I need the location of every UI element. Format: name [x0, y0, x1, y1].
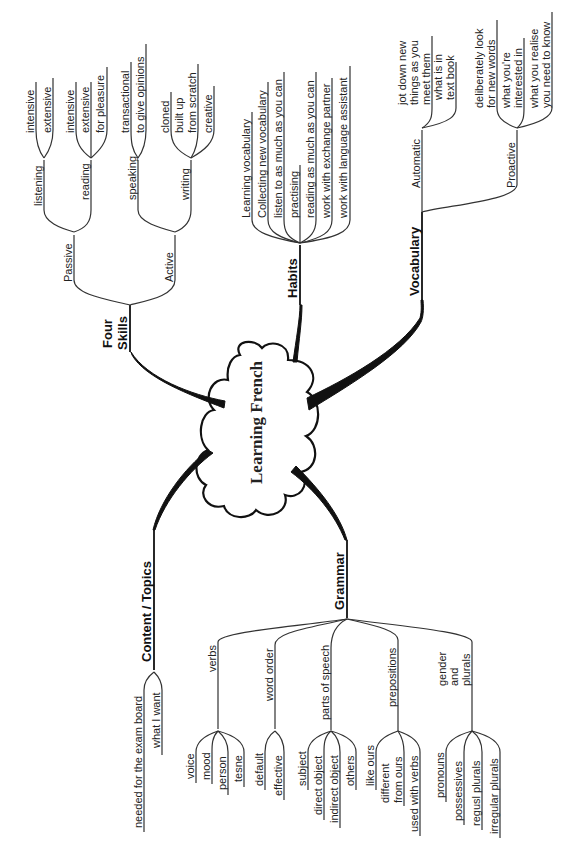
proactive-label: Proactive — [505, 142, 517, 188]
connector-grammar — [291, 466, 347, 540]
pos-item-direct-object: direct object — [312, 756, 324, 815]
proactive-item-2: what you're — [500, 52, 512, 109]
content-item-exam-board: needed for the exam board — [132, 696, 144, 828]
passive-label: Passive — [62, 243, 74, 282]
verbs-item-person: person — [216, 756, 228, 790]
habits-item-4: reading as much as you can — [304, 80, 316, 218]
automatic-item-3: what is in — [432, 54, 444, 101]
reading-item-intensive: intensive — [64, 90, 76, 133]
prep-item-used-with-verbs: used with verbs — [408, 755, 420, 832]
habits-item-5: work with exchange partner — [320, 83, 332, 219]
reading-item-for-pleasure: for pleasure — [94, 75, 106, 133]
proactive-item-5: you need to know — [540, 22, 552, 108]
writing-item-built-up: built up — [173, 98, 185, 133]
four-skills-label-1: Four — [100, 319, 115, 348]
prep-item-like-ours: like ours — [364, 745, 376, 786]
gp-item-pronouns: pronouns — [434, 752, 446, 798]
automatic-item-1: things as you — [408, 40, 420, 105]
grammar-label: Grammar — [332, 552, 347, 610]
active-label: Active — [163, 252, 175, 282]
automatic-item-2: meet them — [420, 53, 432, 105]
reading-label: reading — [79, 163, 91, 200]
listening-item-extensive: extensive — [41, 87, 53, 133]
reading-item-extensive: extensive — [79, 87, 91, 133]
habits-item-6: work with language assistant — [337, 77, 349, 219]
connector-habits — [293, 305, 302, 362]
habits-label: Habits — [285, 258, 300, 298]
plurals-label: plurals — [460, 653, 472, 686]
prep-item-from-ours: from ours — [392, 756, 404, 803]
content-topics-label: Content / Topics — [139, 561, 154, 662]
habits-item-0: Learning vocabulary — [240, 118, 252, 218]
writing-item-creative: creative — [202, 94, 214, 133]
word-order-item-default: default — [253, 753, 265, 786]
automatic-label: Automatic — [410, 139, 422, 188]
listening-label: listening — [32, 166, 44, 206]
and-label: and — [448, 668, 460, 686]
pos-item-indirect-object: indirect object — [328, 755, 340, 823]
branch-content-topics[interactable]: Content / Topics needed for the exam boa… — [132, 530, 162, 832]
writing-item-from-scratch: from scratch — [186, 72, 198, 133]
central-node-label: Learning French — [247, 361, 266, 484]
habits-item-3: practising — [288, 171, 300, 218]
central-node[interactable]: Learning French — [196, 342, 318, 517]
pos-item-others: others — [344, 755, 356, 786]
habits-item-2: listen to as much as you can — [272, 79, 284, 218]
connector-vocabulary — [307, 300, 423, 410]
content-item-what-i-want: what I want — [150, 692, 162, 749]
prep-item-different: different — [379, 763, 391, 803]
writing-item-cloned: cloned — [159, 101, 171, 133]
automatic-item-0: jot down new — [396, 41, 408, 106]
prepositions-label: prepositions — [386, 647, 398, 707]
gp-item-regusl-plurals: regusl plurals — [470, 760, 482, 826]
proactive-item-1: for new words — [485, 39, 497, 108]
speaking-item-transactional: transactional — [119, 71, 131, 133]
pos-item-subject: subject — [296, 751, 308, 786]
automatic-item-4: text book — [444, 55, 456, 100]
writing-label: writing — [179, 168, 191, 201]
verbs-item-voice: voice — [184, 753, 196, 779]
parts-of-speech-label: parts of speech — [319, 645, 331, 720]
speaking-label: speaking — [126, 156, 138, 200]
verbs-label: verbs — [206, 645, 218, 672]
proactive-item-0: deliberately look — [473, 28, 485, 108]
gp-item-irregular-plurals: irregular plurals — [488, 758, 500, 834]
vocabulary-label: Vocabulary — [407, 226, 422, 296]
gp-item-possessives: possessives — [452, 761, 464, 821]
mind-map: Learning French Four Skills Passive Acti… — [0, 0, 583, 859]
speaking-item-to-give-opinions: to give opinions — [134, 56, 146, 133]
listening-item-intensive: intensive — [24, 90, 36, 133]
branch-habits[interactable]: Habits Learning vocabulary Collecting ne… — [240, 66, 350, 305]
branch-four-skills[interactable]: Four Skills Passive Active listening rea… — [24, 44, 214, 352]
habits-item-1: Collecting new vocabulary — [256, 90, 268, 218]
proactive-item-3: interested in — [512, 48, 524, 108]
branch-grammar[interactable]: Grammar verbs word order parts of speech… — [184, 540, 500, 838]
word-order-label: word order — [263, 648, 275, 702]
verbs-item-mood: mood — [200, 752, 212, 780]
gender-label: gender — [436, 651, 448, 686]
word-order-item-effective: effective — [272, 755, 284, 796]
four-skills-label-2: Skills — [115, 316, 130, 350]
verbs-item-tesne: tesne — [232, 755, 244, 782]
connector-four-skills — [131, 352, 225, 408]
proactive-item-4: what you realise — [528, 29, 540, 110]
branch-vocabulary[interactable]: Vocabulary Automatic Proactive jot down … — [396, 12, 552, 300]
